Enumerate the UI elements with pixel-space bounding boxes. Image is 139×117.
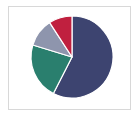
pie-chart-svg [0, 0, 139, 117]
screenshot-root [0, 0, 139, 117]
pie-chart [0, 0, 139, 117]
pie-slice-group [31, 16, 113, 98]
